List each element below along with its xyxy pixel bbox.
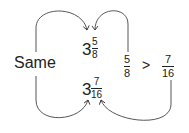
mixed-bottom-fraction: 7 16	[91, 77, 102, 100]
compare-left-denominator: 8	[124, 68, 130, 79]
mixed-top-denominator: 8	[92, 50, 98, 60]
arrow-right-to-top	[95, 11, 128, 52]
arrow-same-to-bottom	[36, 76, 88, 118]
compare-left-fraction: 5 8	[124, 54, 130, 79]
mixed-top-fraction: 5 8	[92, 37, 98, 60]
compare-right-denominator: 16	[162, 68, 174, 79]
arrow-right-to-bottom	[101, 80, 171, 120]
mixed-bottom-numerator: 7	[94, 77, 100, 87]
mixed-top-whole: 3	[82, 41, 91, 58]
compare-right-fraction: 7 16	[162, 54, 174, 79]
mixed-bottom-denominator: 16	[91, 90, 102, 100]
arrow-same-to-top	[36, 11, 87, 52]
compare-left-numerator: 5	[124, 54, 130, 65]
compare-right-numerator: 7	[165, 54, 171, 65]
greater-than-sign: >	[142, 57, 150, 73]
same-label: Same	[14, 55, 56, 71]
mixed-top-numerator: 5	[92, 37, 98, 47]
